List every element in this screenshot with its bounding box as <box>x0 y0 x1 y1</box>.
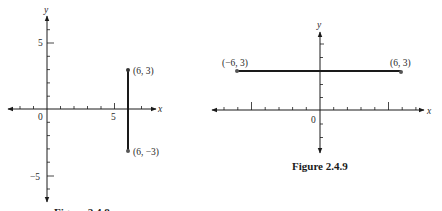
right-y-axis-label: y <box>316 20 322 30</box>
right-origin-label: 0 <box>311 115 316 125</box>
left-y-tick-5-label: 5 <box>38 38 43 48</box>
left-x-axis-label: x <box>157 104 163 114</box>
left-y-tick-neg5-label: −5 <box>30 172 40 182</box>
right-figure-caption: Figure 2.4.9 <box>292 160 348 172</box>
left-x-tick-5-label: 5 <box>111 112 116 122</box>
left-point-6-3 <box>126 68 130 72</box>
left-point-6-neg3 <box>126 149 130 153</box>
right-point-neg6-3-label: (−6, 3) <box>222 58 248 69</box>
right-point-neg6-3 <box>235 69 239 73</box>
left-x-ticks <box>20 103 142 109</box>
figures-canvas: y x 0 5 5 −5 (6, 3) (6, −3) Figure 2.4.8 <box>0 0 442 211</box>
left-origin-label: 0 <box>38 112 43 122</box>
left-figure-caption: Figure 2.4.8 <box>54 206 110 211</box>
right-y-ticks <box>320 44 324 138</box>
left-point-6-neg3-label: (6, −3) <box>133 147 159 158</box>
right-figure: y x 0 (−6, 3) (6, 3) Figure 2.4.9 <box>212 20 432 172</box>
left-point-6-3-label: (6, 3) <box>133 66 154 77</box>
right-point-6-3 <box>399 70 403 74</box>
left-figure: y x 0 5 5 −5 (6, 3) (6, −3) Figure 2.4.8 <box>8 5 163 211</box>
right-point-6-3-label: (6, 3) <box>390 58 411 69</box>
left-y-axis-label: y <box>43 5 49 15</box>
right-x-axis-label: x <box>426 106 432 116</box>
